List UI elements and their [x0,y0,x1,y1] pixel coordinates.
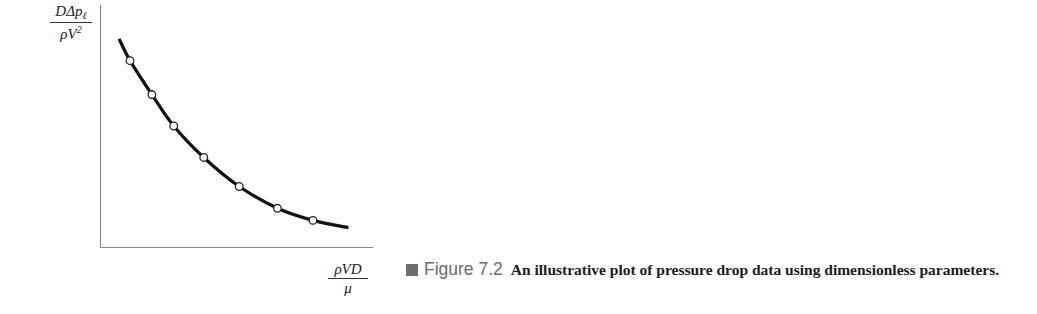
data-point [309,217,317,225]
data-point [148,91,156,99]
data-point [274,204,282,212]
data-point [235,183,243,191]
data-point-markers [126,57,317,224]
caption-text: An illustrative plot of pressure drop da… [511,261,999,278]
data-point [170,122,178,130]
x-axis-label: ρVD μ [328,262,368,296]
figure-caption: Figure 7.2An illustrative plot of pressu… [406,257,1006,282]
square-bullet-icon [406,264,418,276]
data-point [200,154,208,162]
y-axis-label: DΔpℓ ρV2 [50,4,92,42]
fitted-curve [119,39,348,228]
figure-label: Figure 7.2 [424,259,503,279]
data-point [126,57,134,65]
